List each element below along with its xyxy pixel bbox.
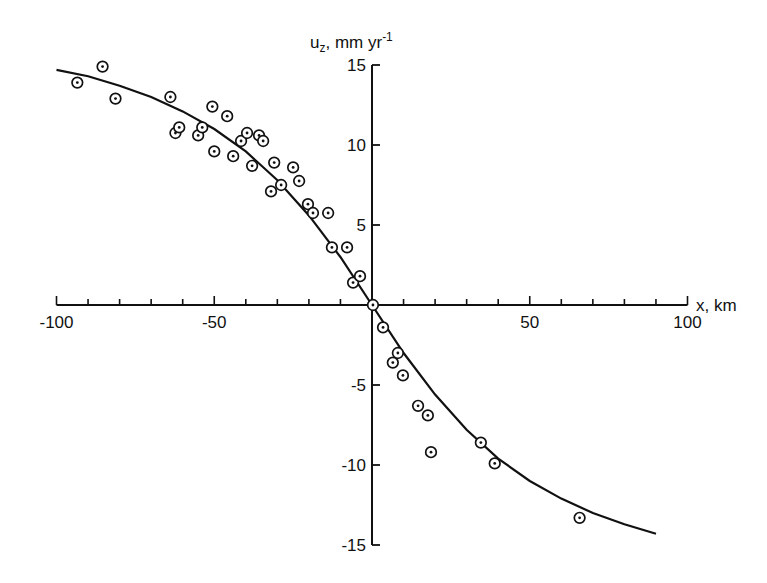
y-tick-label: 15 xyxy=(347,56,366,75)
data-point xyxy=(308,208,319,219)
data-point xyxy=(222,111,233,122)
data-point xyxy=(110,93,121,104)
chart: -100-5050100 15105-5-10-15 x, km uz, mm … xyxy=(0,0,767,583)
y-tick-label: 10 xyxy=(347,136,366,155)
data-point xyxy=(378,322,389,333)
x-tick-label: -50 xyxy=(202,313,227,332)
data-point xyxy=(413,401,424,412)
data-point xyxy=(165,92,176,103)
data-point xyxy=(426,447,437,458)
data-point xyxy=(288,162,299,173)
data-point xyxy=(355,271,366,282)
data-point xyxy=(294,176,305,187)
data-point xyxy=(269,157,280,168)
data-point xyxy=(72,77,83,88)
data-point xyxy=(247,161,258,172)
data-point xyxy=(574,513,585,524)
data-point xyxy=(388,357,399,368)
y-tick-label: -5 xyxy=(351,376,366,395)
data-point xyxy=(228,151,239,162)
data-point xyxy=(97,61,108,72)
data-point xyxy=(368,300,379,311)
x-tick-label: -100 xyxy=(39,313,73,332)
data-point xyxy=(476,437,487,448)
y-axis-label: uz, mm yr-1 xyxy=(310,30,393,55)
data-point xyxy=(489,458,500,469)
data-point xyxy=(207,101,218,112)
data-point xyxy=(209,146,220,157)
data-points xyxy=(72,61,585,523)
y-tick-label: -15 xyxy=(341,536,366,555)
x-tick-label: 50 xyxy=(520,313,539,332)
data-point xyxy=(398,370,409,381)
data-point xyxy=(174,122,185,133)
data-point xyxy=(327,242,338,253)
y-tick-label: 5 xyxy=(357,216,366,235)
data-point xyxy=(276,180,287,191)
data-point xyxy=(197,122,208,133)
data-point xyxy=(323,208,334,219)
y-tick-label: -10 xyxy=(341,456,366,475)
data-point xyxy=(258,136,269,147)
x-axis-label: x, km xyxy=(696,296,737,315)
data-point xyxy=(423,410,434,421)
data-point xyxy=(266,186,277,197)
data-point xyxy=(342,242,353,253)
data-point xyxy=(242,128,253,139)
x-tick-label: 100 xyxy=(673,313,701,332)
